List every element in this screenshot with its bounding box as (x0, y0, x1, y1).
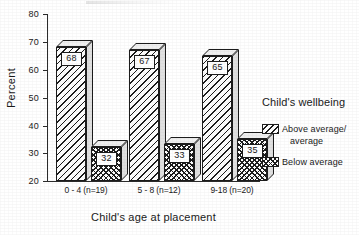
legend-title: Child's wellbeing (262, 96, 358, 109)
diagonal-hatch-swatch-icon (262, 124, 279, 134)
y-tick-label-50: 50 (13, 94, 39, 103)
bar-value-label-0-1: 32 (96, 152, 117, 166)
x-tick-label-0: 0 - 4 (n=19) (46, 186, 126, 195)
legend-label-above-average-cont: average (282, 135, 358, 147)
legend-item-above-average: Above average/ average (262, 123, 358, 147)
y-tick-label-30: 30 (13, 149, 39, 158)
y-tick-label-40: 40 (13, 122, 39, 131)
bar-group-0-above-average (56, 47, 86, 181)
bar-front-face (56, 47, 86, 181)
bar-front-face (129, 50, 159, 181)
bar-value-label-0-0: 68 (61, 52, 82, 66)
chart-canvas: Percent 80 70 60 50 40 30 20 68 32 67 33 (0, 0, 359, 235)
y-tick-label-60: 60 (13, 66, 39, 75)
x-tick-label-1: 5 - 8 (n=12) (119, 186, 199, 195)
y-tick-70 (43, 42, 47, 43)
bar-value-label-2-1: 35 (242, 144, 263, 158)
bar-side-face (121, 140, 128, 181)
bar-side-face (194, 137, 201, 181)
y-tick-80 (43, 14, 47, 15)
y-tick-40 (43, 126, 47, 127)
scan-smudge (86, 1, 178, 4)
y-tick-label-80: 80 (13, 10, 39, 19)
legend-item-below-average: Below average (262, 156, 358, 168)
legend: Child's wellbeing Above average/ average… (262, 96, 358, 177)
bar-group-1-above-average (129, 50, 159, 181)
bar-value-label-2-0: 65 (207, 61, 228, 75)
legend-label-above-average: Above average/ (282, 124, 346, 134)
cross-hatch-swatch-icon (262, 157, 279, 167)
x-axis-line (47, 181, 260, 182)
legend-label-below-average: Below average (282, 157, 343, 167)
bar-value-label-1-1: 33 (169, 149, 190, 163)
x-axis-title: Child's age at placement (47, 211, 260, 223)
x-tick-label-2: 9-18 (n=20) (192, 186, 272, 195)
y-tick-30 (43, 153, 47, 154)
y-tick-50 (43, 98, 47, 99)
y-tick-label-20: 20 (13, 177, 39, 186)
y-axis-line (47, 14, 48, 182)
y-tick-label-70: 70 (13, 38, 39, 47)
bar-value-label-1-0: 67 (134, 55, 155, 69)
y-tick-60 (43, 70, 47, 71)
